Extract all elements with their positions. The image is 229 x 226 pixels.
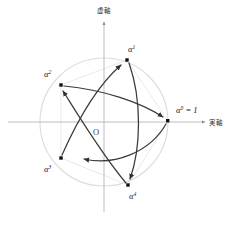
point-a4[interactable] [126,183,129,186]
point-a2[interactable] [59,83,62,86]
label-a4-exponent: 4 [133,191,136,197]
figure-canvas: 虚軸 実軸 O α0 = 1 α1 α2 α3 α4 [0,0,229,226]
label-a3-exponent: 3 [47,164,51,170]
real-axis-label: 実軸 [209,118,223,127]
label-a1: α1 [128,44,135,54]
light-pentagon-chords [61,60,168,185]
origin-label: O [93,127,99,137]
imaginary-axis-label: 虚軸 [97,6,111,15]
label-a2-exponent: 2 [48,69,51,75]
point-a1[interactable] [125,58,128,61]
label-a0: α0 = 1 [176,105,198,115]
arrow-a4-a2 [63,91,126,183]
arrow-a3-a1 [62,65,121,155]
arrow-a2-a0 [64,86,163,117]
point-a0[interactable] [166,119,169,122]
label-a4: α4 [129,191,136,201]
point-a3[interactable] [59,156,62,159]
label-a0-suffix: = 1 [183,105,197,115]
label-a3: α3 [44,164,51,174]
label-a1-exponent: 1 [132,44,135,50]
label-a2: α2 [44,69,51,79]
complex-plane-diagram: 虚軸 実軸 O α0 = 1 α1 α2 α3 α4 [0,0,229,226]
arrow-a1-a4 [129,63,139,179]
